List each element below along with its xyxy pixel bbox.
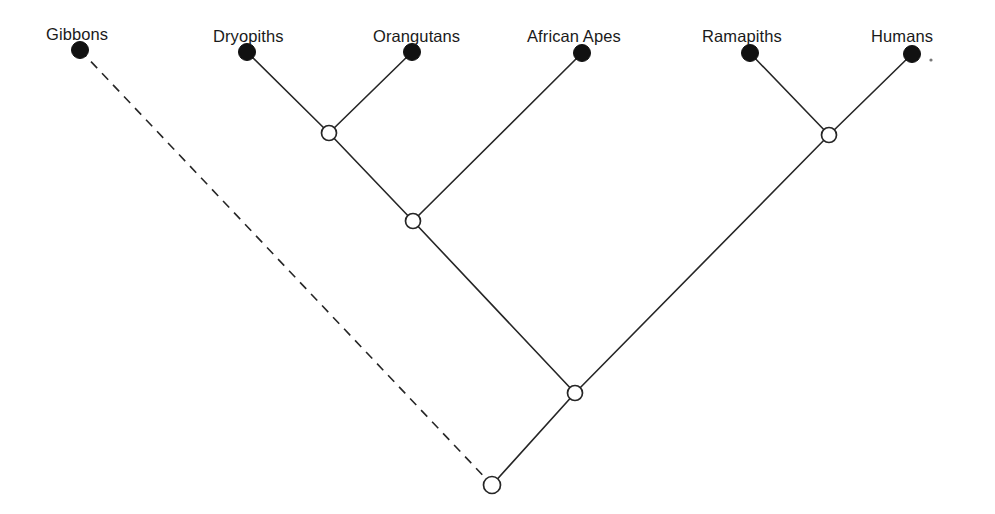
node-hominid	[568, 386, 583, 401]
node-great-ape-asian	[406, 214, 421, 229]
speck-near-humans	[929, 58, 932, 61]
node-dryopith-orangutan	[322, 126, 337, 141]
taxon-label-dryopiths: Dryopiths	[213, 27, 284, 45]
cladogram-figure: GibbonsDryopithsOrangutansAfrican ApesRa…	[0, 0, 995, 514]
terminal-node-ramapiths	[742, 45, 759, 62]
node-root	[484, 477, 501, 494]
taxon-label-orangutans: Orangutans	[373, 27, 460, 45]
terminal-node-humans	[904, 46, 921, 63]
taxon-label-humans: Humans	[871, 27, 933, 45]
taxon-label-gibbons: Gibbons	[46, 25, 108, 43]
terminal-node-orangutans	[404, 44, 421, 61]
taxon-label-ramapiths: Ramapiths	[702, 27, 782, 45]
node-ramapith-human	[822, 128, 837, 143]
terminal-node-african-apes	[574, 45, 591, 62]
taxon-label-african-apes: African Apes	[527, 27, 621, 45]
artifacts-layer	[929, 58, 932, 61]
terminal-node-gibbons	[72, 42, 89, 59]
figure-background	[0, 0, 995, 514]
terminal-node-dryopiths	[239, 44, 256, 61]
cladogram-canvas: GibbonsDryopithsOrangutansAfrican ApesRa…	[0, 0, 995, 514]
